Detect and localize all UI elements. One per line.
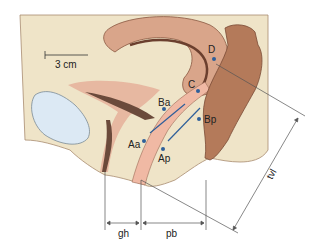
pelvic-anatomy-diagram: D C Ba Bp Aa Ap 3 cm gh pb tvl: [0, 0, 322, 249]
point-Ap: [161, 147, 165, 151]
point-Aa: [142, 139, 146, 143]
point-Bp: [197, 117, 201, 121]
scale-bar-label: 3 cm: [55, 59, 77, 70]
label-C: C: [188, 79, 195, 90]
label-Aa: Aa: [128, 139, 141, 150]
tvl-label: tvl: [264, 167, 278, 181]
label-Bp: Bp: [204, 114, 217, 125]
point-C: [196, 89, 200, 93]
label-D: D: [208, 44, 215, 55]
gh-label: gh: [118, 228, 129, 239]
pb-label: pb: [166, 228, 178, 239]
label-Ap: Ap: [158, 153, 171, 164]
label-Ba: Ba: [158, 97, 171, 108]
point-D: [212, 57, 216, 61]
